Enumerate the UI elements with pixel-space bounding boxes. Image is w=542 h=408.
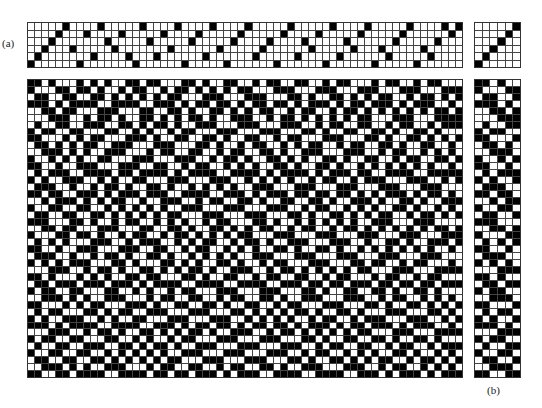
drawdown-cell — [119, 87, 125, 93]
liftplan-cell — [506, 288, 513, 294]
drawdown-cell — [98, 80, 104, 86]
drawdown-cell — [175, 357, 181, 363]
liftplan-cell — [483, 198, 490, 204]
drawdown-cell — [98, 253, 104, 259]
drawdown-cell — [442, 336, 448, 342]
drawdown-cell — [56, 357, 62, 363]
drawdown-cell — [330, 316, 336, 322]
drawdown-cell — [196, 371, 202, 377]
drawdown-cell — [42, 108, 48, 114]
drawdown-cell — [386, 350, 392, 356]
drawdown-cell — [414, 219, 420, 225]
threading-cell — [330, 46, 336, 53]
drawdown-cell — [189, 135, 195, 141]
drawdown-cell — [196, 316, 202, 322]
drawdown-cell — [274, 323, 280, 329]
threading-cell — [203, 46, 209, 53]
drawdown-cell — [105, 329, 111, 335]
drawdown-cell — [238, 316, 244, 322]
drawdown-cell — [260, 115, 266, 121]
threading-cell — [98, 38, 104, 45]
drawdown-cell — [91, 163, 97, 169]
liftplan-cell — [483, 253, 490, 259]
drawdown-cell — [323, 101, 329, 107]
drawdown-cell — [28, 156, 34, 162]
drawdown-cell — [105, 343, 111, 349]
drawdown-cell — [449, 226, 455, 232]
drawdown-cell — [189, 212, 195, 218]
threading-cell — [119, 23, 125, 30]
drawdown-cell — [42, 357, 48, 363]
drawdown-cell — [309, 163, 315, 169]
drawdown-cell — [316, 295, 322, 301]
drawdown-cell — [302, 288, 308, 294]
drawdown-cell — [274, 253, 280, 259]
drawdown-cell — [358, 357, 364, 363]
drawdown-cell — [224, 253, 230, 259]
drawdown-cell — [91, 357, 97, 363]
drawdown-cell — [217, 80, 223, 86]
drawdown-cell — [224, 309, 230, 315]
drawdown-cell — [112, 336, 118, 342]
drawdown-cell — [189, 191, 195, 197]
drawdown-cell — [421, 232, 427, 238]
drawdown-cell — [442, 122, 448, 128]
drawdown-cell — [386, 219, 392, 225]
threading-cell — [309, 46, 315, 53]
drawdown-cell — [288, 336, 294, 342]
drawdown-cell — [288, 108, 294, 114]
drawdown-cell — [182, 336, 188, 342]
drawdown-cell — [407, 350, 413, 356]
drawdown-cell — [119, 350, 125, 356]
drawdown-cell — [168, 101, 174, 107]
drawdown-cell — [253, 329, 259, 335]
liftplan-cell — [506, 129, 513, 135]
drawdown-cell — [407, 177, 413, 183]
drawdown-cell — [175, 80, 181, 86]
drawdown-cell — [203, 135, 209, 141]
drawdown-cell — [238, 191, 244, 197]
threading-cell — [112, 23, 118, 30]
liftplan-cell — [513, 156, 520, 162]
liftplan-cell — [506, 163, 513, 169]
drawdown-cell — [281, 281, 287, 287]
drawdown-cell — [351, 239, 357, 245]
liftplan-cell — [475, 295, 482, 301]
liftplan-cell — [483, 219, 490, 225]
drawdown-cell — [442, 101, 448, 107]
drawdown-cell — [231, 101, 237, 107]
drawdown-cell — [372, 357, 378, 363]
drawdown-cell — [175, 329, 181, 335]
drawdown-cell — [175, 371, 181, 377]
drawdown-cell — [379, 198, 385, 204]
liftplan-cell — [475, 253, 482, 259]
drawdown-cell — [302, 364, 308, 370]
drawdown-cell — [393, 288, 399, 294]
drawdown-cell — [140, 343, 146, 349]
drawdown-cell — [393, 343, 399, 349]
drawdown-cell — [154, 149, 160, 155]
drawdown-cell — [281, 87, 287, 93]
drawdown-cell — [168, 115, 174, 121]
drawdown-cell — [245, 149, 251, 155]
liftplan-cell — [498, 142, 505, 148]
threading-cell — [105, 53, 111, 60]
drawdown-cell — [351, 191, 357, 197]
drawdown-cell — [133, 302, 139, 308]
drawdown-cell — [245, 371, 251, 377]
threading-cell — [210, 31, 216, 38]
threading-cell — [28, 61, 34, 68]
drawdown-cell — [386, 198, 392, 204]
drawdown-cell — [28, 122, 34, 128]
drawdown-cell — [358, 329, 364, 335]
drawdown-cell — [267, 323, 273, 329]
drawdown-cell — [77, 232, 83, 238]
drawdown-cell — [253, 260, 259, 266]
threading-cell — [91, 61, 97, 68]
drawdown-cell — [231, 177, 237, 183]
threading-cell — [203, 53, 209, 60]
drawdown-cell — [56, 323, 62, 329]
drawdown-cell — [323, 163, 329, 169]
drawdown-cell — [330, 239, 336, 245]
drawdown-cell — [119, 170, 125, 176]
